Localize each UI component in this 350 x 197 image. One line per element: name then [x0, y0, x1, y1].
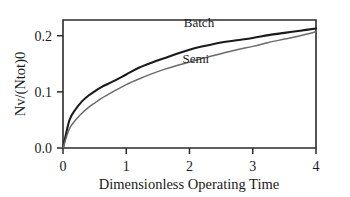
x-axis-title: Dimensionless Operating Time: [99, 176, 279, 192]
chart-figure: 0.00.10.2 01234 BatchSemi Nv/(Ntot)0 Dim…: [0, 0, 350, 197]
y-tick-label: 0.0: [35, 141, 53, 156]
y-axis-title: Nv/(Ntot)0: [12, 52, 29, 116]
x-tick-label: 4: [313, 159, 320, 174]
chart-background: [0, 0, 350, 197]
y-tick-label: 0.1: [35, 85, 53, 100]
chart-canvas: 0.00.10.2 01234 BatchSemi Nv/(Ntot)0 Dim…: [0, 0, 350, 197]
series-label-batch: Batch: [184, 15, 215, 30]
x-tick-label: 0: [60, 159, 67, 174]
x-tick-label: 1: [123, 159, 130, 174]
x-tick-label: 2: [186, 159, 193, 174]
series-label-semi: Semi: [182, 51, 209, 66]
y-tick-label: 0.2: [35, 29, 53, 44]
x-tick-label: 3: [249, 159, 256, 174]
